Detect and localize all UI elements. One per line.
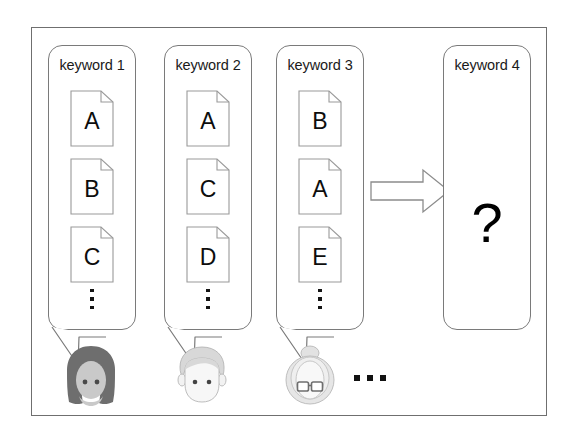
keyword-label-1: keyword 1 (48, 58, 136, 73)
document-list-1: A B C (48, 90, 136, 294)
document-list-3: B A E (276, 90, 364, 294)
document-letter: E (298, 226, 342, 283)
keyword-column-4[interactable]: keyword 4 ? (443, 45, 531, 330)
keyword-label-2: keyword 2 (164, 58, 252, 73)
diagram-root: keyword 1 A B C (0, 0, 576, 437)
document-icon[interactable]: A (70, 90, 114, 147)
document-letter: A (298, 158, 342, 215)
keyword-column-2[interactable]: keyword 2 A C D (164, 45, 252, 330)
document-letter: B (70, 158, 114, 215)
question-mark: ? (443, 195, 531, 251)
document-icon[interactable]: B (298, 90, 342, 147)
keyword-label-4: keyword 4 (443, 58, 531, 73)
document-icon[interactable]: C (70, 226, 114, 283)
keyword-column-3[interactable]: keyword 3 B A E (276, 45, 364, 330)
document-icon[interactable]: D (186, 226, 230, 283)
document-list-2: A C D (164, 90, 252, 294)
document-icon[interactable]: A (186, 90, 230, 147)
document-letter: B (298, 90, 342, 147)
document-letter: D (186, 226, 230, 283)
document-icon[interactable]: E (298, 226, 342, 283)
document-icon[interactable]: C (186, 158, 230, 215)
document-letter: A (70, 90, 114, 147)
vertical-ellipsis-icon (48, 289, 136, 309)
vertical-ellipsis-icon (164, 289, 252, 309)
document-letter: A (186, 90, 230, 147)
more-speakers-ellipsis (354, 375, 386, 381)
document-icon[interactable]: B (70, 158, 114, 215)
keyword-column-1[interactable]: keyword 1 A B C (48, 45, 136, 330)
right-block-arrow-icon (369, 167, 451, 215)
elderly-avatar[interactable] (278, 344, 342, 406)
document-letter: C (186, 158, 230, 215)
man-avatar[interactable] (172, 346, 232, 404)
keyword-label-3: keyword 3 (276, 58, 364, 73)
keyword-bubble-4 (443, 45, 531, 330)
document-icon[interactable]: A (298, 158, 342, 215)
document-letter: C (70, 226, 114, 283)
vertical-ellipsis-icon (276, 289, 364, 309)
woman-avatar[interactable] (57, 344, 125, 406)
